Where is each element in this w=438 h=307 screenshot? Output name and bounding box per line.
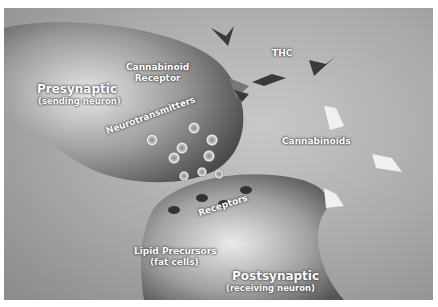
- lipid-precursors-sub-label: (fat cells): [150, 257, 199, 267]
- cannabinoid-molecules: [324, 106, 402, 208]
- synapse-illustration: [4, 8, 433, 300]
- presynaptic-label: Presynaptic: [37, 82, 117, 96]
- cannabinoid-receptor-label-line1: Cannabinoid: [126, 62, 189, 73]
- postsynaptic-label: Postsynaptic: [232, 269, 319, 283]
- postsynaptic-sub-label: (receiving neuron): [226, 283, 315, 293]
- lipid-precursors-label: Lipid Precursors: [134, 246, 217, 256]
- thc-label: THC: [272, 48, 292, 58]
- synapse-diagram: Cannabinoid Receptor THC Presynaptic (se…: [4, 8, 433, 300]
- cannabinoids-label: Cannabinoids: [282, 136, 351, 146]
- cannabinoid-receptor-label-line2: Receptor: [126, 73, 189, 84]
- presynaptic-sub-label: (sending neuron): [38, 96, 121, 106]
